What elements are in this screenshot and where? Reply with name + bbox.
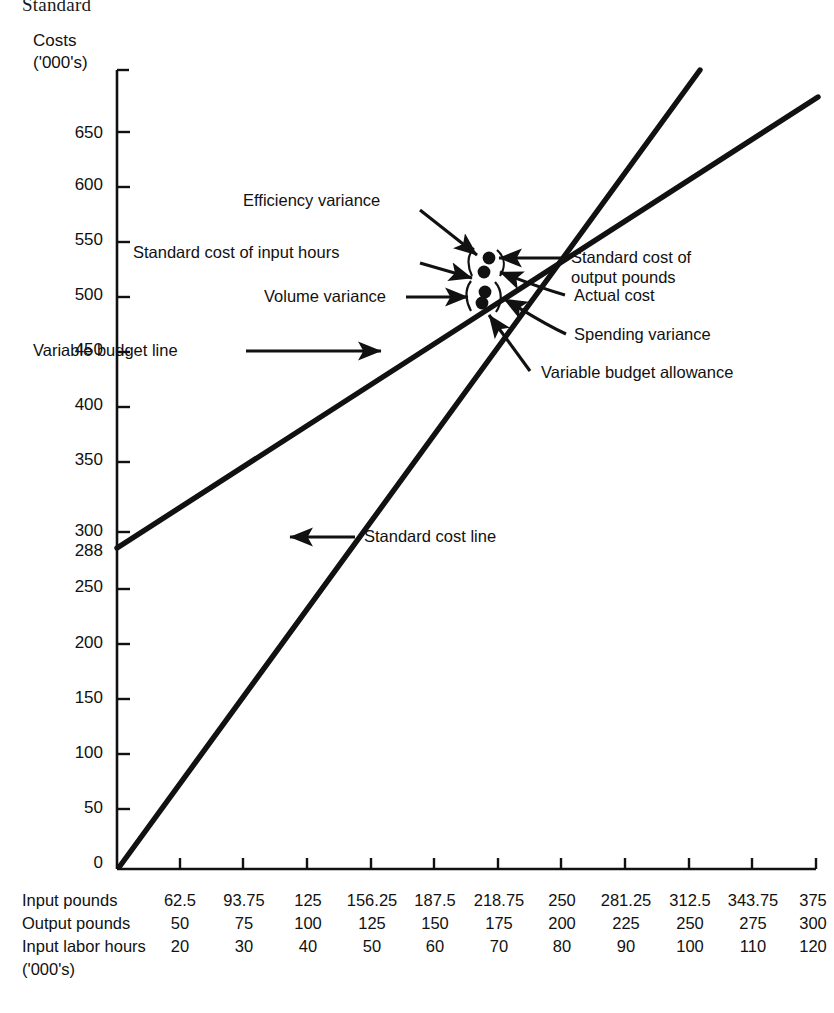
y-tick-550: 550 [55,230,103,250]
x-cell: 125 [358,914,386,933]
leader-efficiency-variance [420,210,477,255]
x-cell: 343.75 [728,891,778,910]
leader-spending-variance [504,299,566,334]
x-cell: 60 [426,937,444,956]
x-cell: 312.5 [669,891,710,910]
x-cell: 187.5 [414,891,455,910]
x-cell: 125 [294,891,322,910]
x-cell: 110 [740,937,766,956]
y-tick-350: 350 [55,450,103,470]
y-tick-600: 600 [55,175,103,195]
x-cell: 62.5 [164,891,196,910]
y-tick-150: 150 [55,688,103,708]
brace-upper-right [497,250,504,276]
y-tick-300: 300 [55,521,103,541]
y-axis-title: Costs [33,30,76,51]
x-axis-row-label: Input pounds [22,891,117,910]
x-cell: 93.75 [223,891,264,910]
point-variable-budget-allowance [479,286,492,299]
leader-actual-cost [500,272,565,295]
x-axis-row-label: Output pounds [22,914,130,933]
x-cell: 30 [235,937,253,956]
x-cell: 90 [617,937,635,956]
x-cell: 150 [421,914,449,933]
x-cell: 250 [676,914,704,933]
point-standard-cost-of-output-pounds [478,266,491,279]
figure-heading: Standard [22,0,91,16]
brace-efficiency-variance [469,248,475,276]
y-tick-0: 0 [55,853,103,873]
x-axis-unit: ('000's) [22,960,75,979]
annotation-standard-cost-of-input-hours: Standard cost of input hours [133,242,339,262]
leader-standard-cost-of-input-hours [420,263,472,278]
x-cell: 200 [548,914,576,933]
y-tick-100: 100 [55,743,103,763]
y-tick-200: 200 [55,633,103,653]
point-standard-cost-of-input-hours [483,252,496,265]
x-cell: 175 [485,914,513,933]
x-cell: 218.75 [474,891,524,910]
x-axis-ticks [180,858,816,869]
x-cell: 120 [799,937,827,956]
x-cell: 275 [739,914,767,933]
point-actual-cost [476,297,489,310]
x-cell: 50 [171,914,189,933]
y-tick-400: 400 [55,395,103,415]
x-axis-row-input-labor-hours: Input labor hours 20 30 40 50 60 70 80 9… [22,937,834,960]
x-axis-row-input-pounds: Input pounds 62.5 93.75 125 156.25 187.5… [22,891,834,914]
x-cell: 156.25 [347,891,397,910]
x-cell: 281.25 [601,891,651,910]
x-axis-scale-table: Input pounds 62.5 93.75 125 156.25 187.5… [22,891,834,960]
brace-spending-variance [495,282,501,312]
y-tick-50: 50 [55,798,103,818]
y-axis [117,70,129,869]
leader-variable-budget-allowance [489,315,530,371]
y-axis-ticks [117,132,130,809]
x-cell: 40 [299,937,317,956]
x-cell: 80 [553,937,571,956]
y-tick-650: 650 [55,123,103,143]
x-cell: 225 [612,914,640,933]
x-axis-row-label: Input labor hours [22,937,146,956]
annotation-variable-budget-line: Variable budget line [33,340,178,360]
annotation-variable-budget-allowance: Variable budget allowance [541,362,733,382]
y-tick-500: 500 [55,285,103,305]
annotation-actual-cost: Actual cost [574,285,655,305]
x-cell: 250 [548,891,576,910]
x-cell: 75 [235,914,253,933]
annotation-standard-cost-line: Standard cost line [364,526,496,546]
annotation-standard-cost-of-output-pounds: Standard cost of output pounds [571,247,741,287]
x-cell: 20 [171,937,189,956]
x-cell: 50 [363,937,381,956]
chart-figure: Standard Costs ('000's) 650 600 550 500 … [0,0,834,1013]
y-axis-unit: ('000's) [33,52,88,73]
x-axis-row-output-pounds: Output pounds 50 75 100 125 150 175 200 … [22,914,834,937]
annotation-volume-variance: Volume variance [264,286,386,306]
variable-budget-line [117,97,818,548]
annotation-efficiency-variance: Efficiency variance [243,190,380,210]
y-tick-288: 288 [55,541,103,561]
x-cell: 100 [676,937,704,956]
y-tick-250: 250 [55,577,103,597]
x-cell: 300 [799,914,827,933]
brace-volume-variance [466,281,471,311]
x-cell: 100 [294,914,322,933]
standard-cost-line [120,70,700,866]
x-cell: 70 [490,937,508,956]
annotation-spending-variance: Spending variance [574,324,711,344]
x-cell: 375 [799,891,827,910]
